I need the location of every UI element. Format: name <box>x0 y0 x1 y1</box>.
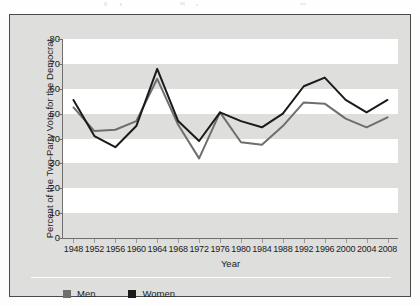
x-tick-label: 2000 <box>335 244 357 255</box>
series-lines <box>63 39 398 238</box>
legend-entry-men: Men <box>63 289 95 299</box>
x-tick-label: 1948 <box>62 244 84 255</box>
chart-frame: 01020304050607080 1948195219561960196419… <box>9 14 411 297</box>
x-tick-mark <box>283 239 284 243</box>
x-tick-mark <box>178 239 179 243</box>
series-line-women <box>73 69 387 147</box>
y-tick-mark <box>58 64 62 65</box>
legend-swatch <box>63 290 71 298</box>
x-tick-label: 1996 <box>314 244 336 255</box>
x-axis-line <box>62 238 398 239</box>
series-line-men <box>73 79 387 159</box>
x-tick-label: 1988 <box>272 244 294 255</box>
x-tick-mark <box>262 239 263 243</box>
x-tick-mark <box>367 239 368 243</box>
y-tick-mark <box>58 238 62 239</box>
x-tick-label: 1984 <box>251 244 273 255</box>
x-tick-mark <box>115 239 116 243</box>
x-tick-mark <box>157 239 158 243</box>
y-tick-mark <box>58 39 62 40</box>
chart-legend: MenWomen <box>63 287 175 301</box>
y-tick-mark <box>58 213 62 214</box>
y-tick-mark <box>58 139 62 140</box>
x-tick-label: 1980 <box>230 244 252 255</box>
x-tick-label: 1952 <box>83 244 105 255</box>
x-tick-mark <box>73 239 74 243</box>
y-tick-mark <box>58 114 62 115</box>
x-tick-label: 1960 <box>125 244 147 255</box>
x-tick-label: 2008 <box>377 244 399 255</box>
x-tick-mark <box>241 239 242 243</box>
x-tick-mark <box>94 239 95 243</box>
x-tick-label: 1968 <box>167 244 189 255</box>
y-tick-mark <box>58 89 62 90</box>
x-tick-mark <box>304 239 305 243</box>
y-axis-title: Percent of the Two-Party Vote for the De… <box>44 39 55 239</box>
x-tick-mark <box>199 239 200 243</box>
x-tick-label: 1992 <box>293 244 315 255</box>
x-tick-mark <box>346 239 347 243</box>
legend-divider <box>31 277 391 278</box>
x-tick-label: 1976 <box>209 244 231 255</box>
x-tick-label: 1964 <box>146 244 168 255</box>
legend-label: Men <box>77 289 95 299</box>
x-tick-mark <box>325 239 326 243</box>
x-axis-title: Year <box>63 258 398 269</box>
x-tick-label: 1956 <box>104 244 126 255</box>
legend-label: Women <box>142 289 175 299</box>
x-tick-mark <box>220 239 221 243</box>
figure: 01020304050607080 1948195219561960196419… <box>0 0 420 306</box>
x-tick-mark <box>136 239 137 243</box>
plot-area <box>63 39 398 238</box>
legend-entry-women: Women <box>128 289 175 299</box>
x-tick-mark <box>388 239 389 243</box>
y-axis-line <box>62 39 63 238</box>
y-tick-mark <box>58 188 62 189</box>
y-tick-mark <box>58 163 62 164</box>
x-tick-label: 1972 <box>188 244 210 255</box>
x-tick-label: 2004 <box>356 244 378 255</box>
legend-swatch <box>128 290 136 298</box>
